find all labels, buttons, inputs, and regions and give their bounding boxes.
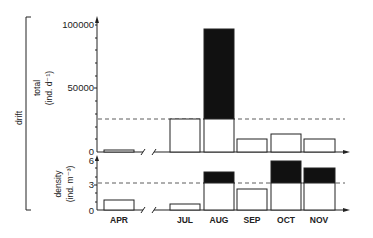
top-axis-arrow-icon xyxy=(95,16,99,23)
bottom-bar-nov-filled xyxy=(304,168,335,183)
month-label-sep: SEP xyxy=(243,215,260,225)
top-tick-100000: 100000 xyxy=(62,19,94,30)
top-y-axis xyxy=(94,20,97,152)
month-label-oct: OCT xyxy=(277,215,296,225)
drift-bracket xyxy=(26,17,31,210)
month-label-apr: APR xyxy=(110,215,128,225)
bottom-bar-apr xyxy=(104,200,134,210)
top-bar-oct xyxy=(271,134,301,152)
top-bar-apr xyxy=(104,150,134,152)
bottom-yunit: (ind. m⁻³) xyxy=(65,166,75,203)
bottom-tick-6: 6 xyxy=(89,155,94,166)
bottom-bar-oct-open xyxy=(271,183,301,210)
top-x-arrow-icon xyxy=(343,150,350,154)
top-yunit: (ind. d⁻¹) xyxy=(44,71,54,105)
drift-chart: drift total (ind. d⁻¹) 100000 50000 0 de… xyxy=(0,0,373,238)
top-tick-50000: 50000 xyxy=(68,82,94,93)
top-bar-sep xyxy=(237,139,267,152)
bottom-axis-arrow-icon xyxy=(95,155,99,161)
top-bar-jul xyxy=(170,119,200,152)
month-label-jul: JUL xyxy=(177,215,193,225)
top-bar-aug-open xyxy=(204,119,234,152)
month-label-nov: NOV xyxy=(310,215,329,225)
bottom-bar-aug-filled xyxy=(204,172,234,183)
top-ylabel: total xyxy=(32,80,42,96)
month-label-aug: AUG xyxy=(210,215,229,225)
bottom-tick-0: 0 xyxy=(89,205,94,216)
bottom-tick-3: 3 xyxy=(89,179,94,190)
top-bar-aug-filled xyxy=(204,29,234,119)
top-bars xyxy=(104,29,335,152)
group-label: drift xyxy=(14,110,24,125)
bottom-bars xyxy=(104,161,335,210)
bottom-y-axis xyxy=(94,158,97,210)
bottom-bar-nov-open xyxy=(304,183,335,210)
bottom-x-arrow-icon xyxy=(343,208,350,212)
bottom-ylabel: density xyxy=(53,170,63,198)
bottom-bar-aug-open xyxy=(204,183,234,210)
top-bar-nov xyxy=(304,139,335,152)
bottom-bar-jul xyxy=(170,204,200,210)
bottom-bar-sep xyxy=(237,189,267,210)
bottom-bar-oct-filled xyxy=(271,161,301,183)
